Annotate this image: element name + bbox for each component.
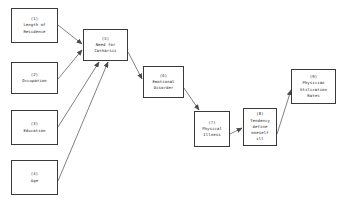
edge-n5-to-n6 xyxy=(128,52,142,79)
node-label-n5: Need for Catharsis xyxy=(94,42,116,55)
edge-n6-to-n7 xyxy=(184,88,199,110)
node-label-n2: Occupation xyxy=(22,78,47,84)
node-box-n4: (4)Age xyxy=(11,160,58,195)
node-label-n9: Physician Utilization Rates xyxy=(300,80,327,99)
node-label-n4: Age xyxy=(31,178,38,184)
edge-n7-to-n8 xyxy=(230,128,242,134)
node-box-n9: (9)Physician Utilization Rates xyxy=(291,69,336,104)
node-box-n1: (1)Length of Residence xyxy=(11,8,58,43)
node-label-n3: Education xyxy=(23,128,45,134)
edge-n2-to-n5 xyxy=(58,50,82,79)
node-box-n8: (8)Tendency define oneself ill xyxy=(243,108,277,146)
node-label-n8: Tendency define oneself ill xyxy=(250,118,270,143)
node-box-n6: (6)Emotional Disorder xyxy=(143,66,184,98)
node-box-n3: (3)Education xyxy=(11,110,58,145)
node-box-n7: (7)Physical Illness xyxy=(194,111,230,147)
edge-n4-to-n5 xyxy=(58,62,108,181)
edge-n8-to-n9 xyxy=(277,90,291,134)
path-diagram: (1)Length of Residence(2)Occupation(3)Ed… xyxy=(0,0,349,205)
node-label-n1: Length of Residence xyxy=(23,22,45,35)
node-label-n6: Emotional Disorder xyxy=(152,79,174,92)
edge-n1-to-n5 xyxy=(58,25,82,44)
node-box-n5: (5)Need for Catharsis xyxy=(83,29,128,61)
node-box-n2: (2)Occupation xyxy=(11,62,58,94)
node-label-n7: Physical Illness xyxy=(202,126,222,139)
